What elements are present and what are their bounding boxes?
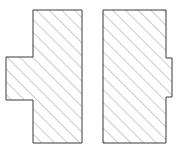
diagram-canvas [0, 0, 183, 152]
right-shape-group [103, 10, 172, 143]
right-hatched-polygon [103, 10, 172, 143]
diagram-svg [0, 0, 183, 152]
